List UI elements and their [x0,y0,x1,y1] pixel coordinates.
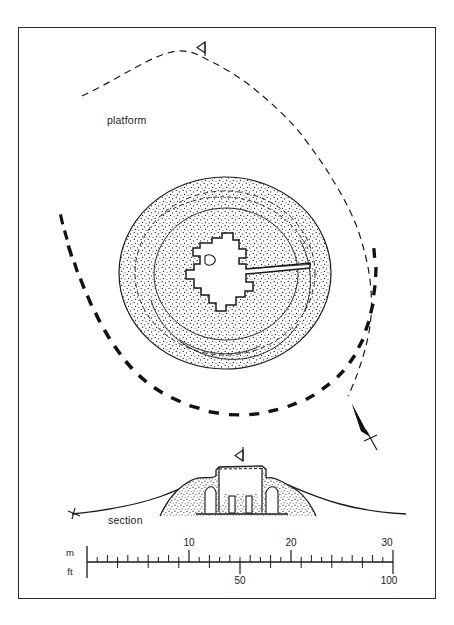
section-profile [68,466,406,519]
site-plan-drawing: platform [0,0,454,625]
scale-label-ft-100: 100 [381,575,398,586]
scale-unit-feet: ft [67,566,73,577]
section-flag-top-icon [197,42,205,56]
scale-label-m-10: 10 [183,537,195,548]
scale-ticks-metres [97,550,393,562]
scale-bar: m ft 10 20 30 50 100 [66,537,398,586]
scale-label-m-20: 20 [285,537,297,548]
platform-label: platform [107,114,147,126]
figure-page: platform [0,0,454,625]
north-arrow [352,404,377,450]
section-flag-bottom-icon [235,447,243,461]
scale-label-m-30: 30 [381,537,393,548]
sill-stone [205,255,215,266]
scale-label-ft-50: 50 [234,575,246,586]
scale-ticks-feet [118,562,393,574]
scale-unit-metres: m [66,547,74,558]
section-label: section [108,514,143,526]
